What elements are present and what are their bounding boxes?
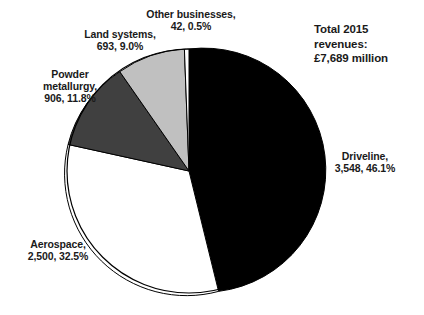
slice-label-aerospace: Aerospace, 2,500, 32.5%: [2, 238, 114, 262]
slice-label-land-systems: Land systems, 693, 9.0%: [66, 28, 174, 52]
pie-chart: Other businesses, 42, 0.5% Land systems,…: [0, 0, 424, 315]
slice-label-powder-metallurgy: Powder metallurgy, 906, 11.8%: [18, 68, 122, 105]
total-revenues-annotation: Total 2015 revenues: £7,689 million: [314, 22, 424, 66]
slice-label-driveline: Driveline, 3,548, 46.1%: [312, 150, 418, 174]
